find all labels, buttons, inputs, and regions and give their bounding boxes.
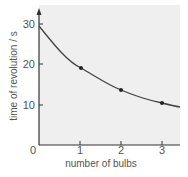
x-tick-label: 3 — [159, 144, 165, 156]
data-point — [160, 101, 164, 105]
x-tick-label: 1 — [77, 144, 83, 156]
y-axis-label: time of revolution / s — [8, 31, 19, 120]
plot-background — [39, 5, 180, 145]
y-tick-label: 20 — [23, 58, 35, 70]
x-tick-label: 2 — [118, 144, 124, 156]
y-tick-label: 30 — [23, 18, 35, 30]
data-point — [79, 66, 83, 70]
data-point — [119, 88, 123, 92]
x-axis-label: number of bulbs — [65, 158, 137, 169]
chart: 0 1 2 3 10 20 30 number of bulbs time of… — [0, 0, 188, 177]
y-tick-label: 10 — [23, 99, 35, 111]
x-tick-label: 0 — [30, 144, 36, 156]
